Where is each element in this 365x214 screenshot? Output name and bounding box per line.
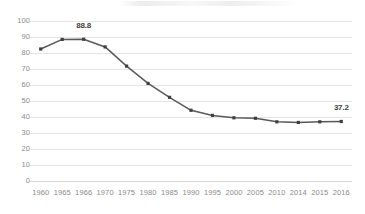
data-point-marker xyxy=(297,121,300,124)
x-tick-label: 2014 xyxy=(290,189,307,197)
y-tick-label: 10 xyxy=(6,161,30,169)
x-tick-label: 2015 xyxy=(311,189,328,197)
data-point-marker xyxy=(254,117,257,120)
data-point-marker xyxy=(39,47,42,50)
x-tick-label: 1995 xyxy=(204,189,221,197)
x-tick-label: 1966 xyxy=(75,189,92,197)
data-point-marker xyxy=(340,120,343,123)
y-tick-label: 60 xyxy=(6,81,30,89)
x-axis: 1960196519661970197519801985199019952000… xyxy=(30,189,352,203)
data-point-marker xyxy=(275,120,278,123)
y-tick-label: 30 xyxy=(6,129,30,137)
x-tick-label: 1985 xyxy=(161,189,178,197)
y-tick-label: 80 xyxy=(6,49,30,57)
y-tick-label: 20 xyxy=(6,145,30,153)
data-point-marker xyxy=(211,114,214,117)
data-point-marker xyxy=(146,82,149,85)
data-label-88.8: 88.8 xyxy=(76,22,91,30)
data-point-marker xyxy=(125,65,128,68)
data-point-marker xyxy=(232,116,235,119)
x-tick-label: 1975 xyxy=(118,189,135,197)
data-point-marker xyxy=(168,96,171,99)
x-tick-label: 1990 xyxy=(182,189,199,197)
data-point-marker xyxy=(61,38,64,41)
line-chart: 0102030405060708090100 88.837.2 19601965… xyxy=(0,0,365,214)
data-point-marker xyxy=(104,45,107,48)
x-tick-label: 1970 xyxy=(97,189,114,197)
y-tick-label: 50 xyxy=(6,97,30,105)
x-tick-label: 2010 xyxy=(268,189,285,197)
data-point-marker xyxy=(318,120,321,123)
y-tick-label: 40 xyxy=(6,113,30,121)
y-tick-label: 0 xyxy=(6,177,30,185)
data-series-line xyxy=(30,21,352,181)
x-tick-label: 2005 xyxy=(247,189,264,197)
cropped-title-artifact xyxy=(120,1,300,6)
y-tick-label: 100 xyxy=(6,17,30,25)
data-point-marker xyxy=(82,38,85,41)
y-tick-label: 90 xyxy=(6,33,30,41)
x-tick-label: 2000 xyxy=(225,189,242,197)
x-tick-label: 1960 xyxy=(32,189,49,197)
x-tick-label: 1980 xyxy=(140,189,157,197)
x-tick-label: 2016 xyxy=(333,189,350,197)
data-point-marker xyxy=(189,109,192,112)
x-tick-label: 1965 xyxy=(54,189,71,197)
data-label-37.2: 37.2 xyxy=(334,104,349,112)
y-axis: 0102030405060708090100 xyxy=(0,0,30,214)
y-tick-label: 70 xyxy=(6,65,30,73)
gridline-0 xyxy=(30,181,352,182)
plot-area: 88.837.2 xyxy=(30,21,352,181)
